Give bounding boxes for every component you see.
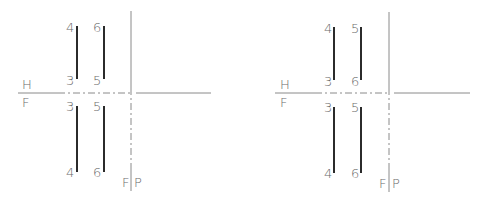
- point-label: 6: [351, 74, 359, 89]
- label-f: F: [22, 95, 29, 110]
- point-label: 3: [66, 73, 74, 88]
- point-label: 6: [93, 20, 101, 35]
- point-label: 6: [351, 166, 359, 181]
- point-label: 5: [351, 21, 359, 36]
- diagram-right: H F F P 4 3 5 6 3 4 5 6: [275, 12, 470, 192]
- point-label: 4: [66, 20, 74, 35]
- label-h: H: [280, 77, 290, 92]
- point-label: 3: [66, 99, 74, 114]
- point-label: 3: [324, 74, 332, 89]
- label-f: F: [280, 95, 287, 110]
- label-f-vertical: F: [379, 176, 386, 191]
- orthographic-projection-figure: H F F P 4 3 6 5 3 4 5 6 H F F P: [0, 0, 479, 204]
- point-label: 5: [93, 73, 101, 88]
- label-p: P: [392, 176, 400, 191]
- label-h: H: [22, 77, 32, 92]
- point-label: 4: [324, 21, 332, 36]
- point-label: 6: [93, 165, 101, 180]
- label-f-vertical: F: [122, 175, 129, 190]
- point-label: 5: [93, 99, 101, 114]
- point-label: 4: [66, 165, 74, 180]
- diagram-left: H F F P 4 3 6 5 3 4 5 6: [18, 11, 211, 191]
- label-p: P: [134, 175, 142, 190]
- point-label: 4: [324, 166, 332, 181]
- point-label: 5: [351, 100, 359, 115]
- point-label: 3: [324, 100, 332, 115]
